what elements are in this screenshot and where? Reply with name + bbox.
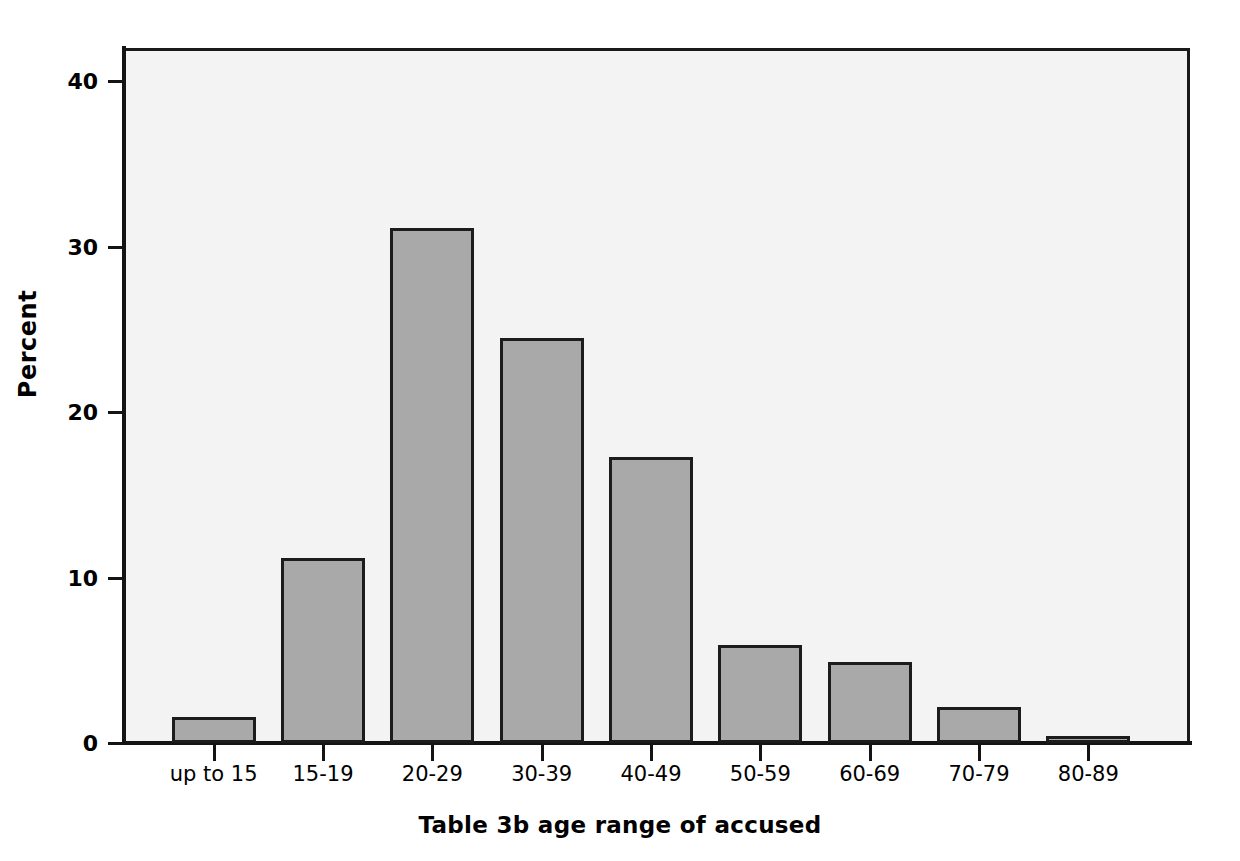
x-tick-label: 15-19: [292, 762, 353, 786]
x-tick-label: 50-59: [730, 762, 791, 786]
x-tick-label: 30-39: [511, 762, 572, 786]
y-tick-label: 40: [36, 69, 98, 94]
bar: [718, 645, 802, 743]
x-tick-label: 70-79: [948, 762, 1009, 786]
y-tick-mark: [108, 246, 124, 249]
x-tick-mark: [650, 745, 653, 761]
y-tick-mark: [108, 411, 124, 414]
bar: [1046, 736, 1130, 743]
x-axis-title: Table 3b age range of accused: [0, 812, 1240, 838]
bar-chart: Percent 010203040 up to 1515-1920-2930-3…: [0, 0, 1240, 861]
y-tick-mark: [108, 742, 124, 745]
x-tick-mark: [759, 745, 762, 761]
y-tick-label: 0: [36, 731, 98, 756]
bar: [390, 228, 474, 743]
x-tick-label: 80-89: [1058, 762, 1119, 786]
x-tick-mark: [869, 745, 872, 761]
x-tick-label: 40-49: [620, 762, 681, 786]
x-tick-label: 20-29: [402, 762, 463, 786]
y-tick-mark: [108, 577, 124, 580]
bar: [937, 707, 1021, 743]
x-tick-label: up to 15: [170, 762, 258, 786]
bar: [281, 558, 365, 743]
x-tick-mark: [1087, 745, 1090, 761]
x-tick-mark: [541, 745, 544, 761]
y-axis-line: [122, 46, 126, 745]
bar: [172, 717, 256, 743]
x-tick-label: 60-69: [839, 762, 900, 786]
bar: [500, 338, 584, 743]
x-tick-mark: [978, 745, 981, 761]
y-tick-label: 20: [36, 400, 98, 425]
x-tick-mark: [431, 745, 434, 761]
x-tick-mark: [322, 745, 325, 761]
x-tick-mark: [213, 745, 216, 761]
bar: [609, 457, 693, 743]
y-tick-mark: [108, 80, 124, 83]
bar: [828, 662, 912, 743]
y-tick-label: 30: [36, 234, 98, 259]
y-tick-label: 10: [36, 565, 98, 590]
